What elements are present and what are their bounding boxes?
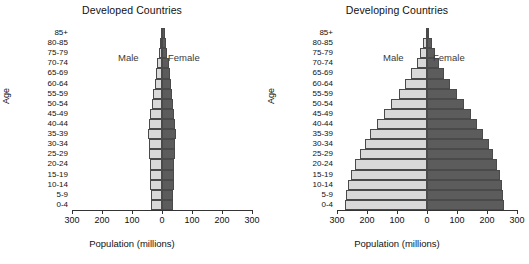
x-axis-tick xyxy=(72,210,73,214)
y-axis-tick-label: 60-64 xyxy=(48,79,68,89)
bar-male xyxy=(384,109,428,119)
y-axis-tick-label: 70-74 xyxy=(313,58,333,68)
bar-male xyxy=(155,79,163,89)
x-axis-tick-label: 0 xyxy=(147,215,177,225)
bar-female xyxy=(162,149,175,159)
chart-panel-developed: Developed Countries Age 85+80-8575-7970-… xyxy=(0,0,264,264)
bar-female xyxy=(162,139,175,149)
bar-male xyxy=(399,89,428,99)
y-axis-tick-label: 15-19 xyxy=(313,170,333,180)
x-axis-tick-label: 100 xyxy=(382,215,412,225)
y-axis-tick-labels: 85+80-8575-7970-7465-6960-6455-5950-5445… xyxy=(279,28,333,210)
x-axis-title: Population (millions) xyxy=(265,238,529,249)
bar-female xyxy=(162,89,172,99)
bar-female xyxy=(427,119,477,129)
x-axis-tick-label: 300 xyxy=(237,215,267,225)
y-axis-tick-label: 60-64 xyxy=(313,79,333,89)
y-axis-tick-label: 55-59 xyxy=(313,89,333,99)
y-axis-title: Age xyxy=(266,88,276,104)
bar-male xyxy=(150,180,162,190)
bar-male xyxy=(405,79,427,89)
x-axis-tick xyxy=(192,210,193,214)
x-axis-tick xyxy=(427,210,428,214)
y-axis-tick-label: 0-4 xyxy=(56,200,68,210)
bar-female xyxy=(427,159,497,169)
y-axis-tick-label: 40-44 xyxy=(313,119,333,129)
bar-male xyxy=(149,119,162,129)
bar-male xyxy=(150,109,162,119)
y-axis-tick-label: 30-34 xyxy=(48,139,68,149)
bar-female xyxy=(427,99,464,109)
bar-male xyxy=(360,149,428,159)
y-axis-title: Age xyxy=(1,88,11,104)
bar-male xyxy=(377,119,427,129)
y-axis-tick-label: 5-9 xyxy=(56,190,68,200)
bar-male xyxy=(348,180,427,190)
y-axis-tick-label: 85+ xyxy=(54,28,68,38)
x-axis-tick xyxy=(222,210,223,214)
y-axis-tick-label: 20-24 xyxy=(48,159,68,169)
x-axis-tick-label: 200 xyxy=(87,215,117,225)
series-label-male: Male xyxy=(383,52,404,63)
y-axis-tick-label: 25-29 xyxy=(313,149,333,159)
bar-male xyxy=(355,159,427,169)
x-axis-tick xyxy=(367,210,368,214)
series-label-male: Male xyxy=(118,52,139,63)
y-axis-tick-label: 15-19 xyxy=(48,170,68,180)
y-axis-tick-label: 10-14 xyxy=(313,180,333,190)
x-axis-tick-label: 200 xyxy=(352,215,382,225)
bar-female xyxy=(162,119,175,129)
x-axis-title: Population (millions) xyxy=(0,238,264,249)
bar-female xyxy=(162,129,176,139)
bar-male xyxy=(420,48,427,58)
x-axis-tick xyxy=(132,210,133,214)
bar-male xyxy=(151,190,162,200)
x-axis-tick-label: 300 xyxy=(322,215,352,225)
plot-area xyxy=(337,28,517,210)
y-axis-tick-label: 45-49 xyxy=(48,109,68,119)
x-axis-tick-label: 200 xyxy=(472,215,502,225)
bar-female xyxy=(427,190,503,200)
center-axis-line xyxy=(427,28,428,210)
bar-male xyxy=(150,170,162,180)
bar-female xyxy=(162,79,171,89)
y-axis-tick-label: 55-59 xyxy=(48,89,68,99)
bar-male xyxy=(417,58,428,68)
y-axis-tick-label: 80-85 xyxy=(48,38,68,48)
bar-female xyxy=(427,109,471,119)
y-axis-tick-label: 50-54 xyxy=(313,99,333,109)
bar-male xyxy=(151,200,162,210)
y-axis-tick-label: 20-24 xyxy=(313,159,333,169)
bar-male xyxy=(148,129,162,139)
y-axis-tick-label: 50-54 xyxy=(48,99,68,109)
bar-female xyxy=(427,149,493,159)
bar-female xyxy=(162,159,174,169)
bar-male xyxy=(346,190,427,200)
y-axis-tick-label: 30-34 xyxy=(313,139,333,149)
y-axis-tick-label: 35-39 xyxy=(313,129,333,139)
x-axis-tick-label: 300 xyxy=(57,215,87,225)
y-axis-tick-label: 80-85 xyxy=(313,38,333,48)
bar-male xyxy=(351,170,427,180)
x-axis-tick-label: 100 xyxy=(442,215,472,225)
bar-male xyxy=(365,139,427,149)
bar-female xyxy=(427,68,444,78)
y-axis-tick-label: 65-69 xyxy=(48,68,68,78)
chart-title: Developing Countries xyxy=(265,4,529,16)
y-axis-tick-label: 0-4 xyxy=(321,200,333,210)
x-axis-tick-label: 300 xyxy=(502,215,529,225)
y-axis-tick-label: 10-14 xyxy=(48,180,68,190)
y-axis-tick-label: 85+ xyxy=(319,28,333,38)
plot-area xyxy=(72,28,252,210)
bar-male xyxy=(391,99,427,109)
x-axis-tick xyxy=(337,210,338,214)
x-axis-tick xyxy=(252,210,253,214)
center-axis-line xyxy=(162,28,163,210)
y-axis-tick-label: 5-9 xyxy=(321,190,333,200)
y-axis-tick-label: 70-74 xyxy=(48,58,68,68)
x-axis-tick-label: 100 xyxy=(117,215,147,225)
bar-male xyxy=(153,89,162,99)
bar-male xyxy=(370,129,427,139)
x-axis-tick xyxy=(162,210,163,214)
bar-male xyxy=(149,139,163,149)
